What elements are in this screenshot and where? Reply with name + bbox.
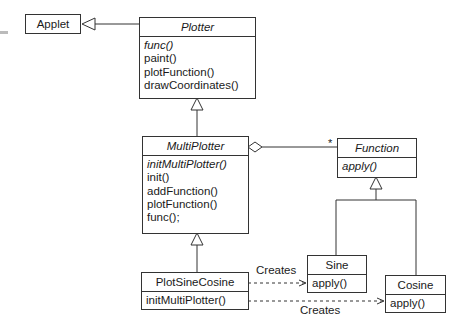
class-cosine: Cosine apply()	[385, 275, 446, 313]
operation: initMultiPlotter()	[146, 294, 244, 307]
operation: func();	[147, 211, 244, 224]
multiplicity-label: *	[328, 137, 332, 149]
operation: addFunction()	[147, 185, 244, 198]
operation: apply()	[312, 277, 362, 290]
operation: drawCoordinates()	[144, 79, 251, 92]
creates-cosine-label: Creates	[300, 304, 340, 316]
class-name: Cosine	[386, 276, 445, 295]
operation: func()	[144, 39, 251, 52]
operation: init()	[147, 171, 244, 184]
class-sine: Sine apply()	[307, 255, 367, 293]
creates-sine-label: Creates	[256, 264, 296, 276]
class-name: Function	[338, 139, 416, 158]
class-plotsinecosine: PlotSineCosine initMultiPlotter()	[141, 272, 249, 310]
operation: initMultiPlotter()	[147, 158, 244, 171]
class-function: Function apply()	[337, 138, 417, 178]
operation: plotFunction()	[147, 198, 244, 211]
operation: paint()	[144, 52, 251, 65]
class-name: MultiPlotter	[143, 137, 248, 156]
class-name: Applet	[26, 15, 80, 33]
operation: plotFunction()	[144, 66, 251, 79]
operation: apply()	[342, 160, 412, 173]
class-name: Plotter	[140, 18, 255, 37]
class-plotter: Plotter func() paint() plotFunction() dr…	[139, 17, 256, 99]
class-multiplotter: MultiPlotter initMultiPlotter() init() a…	[142, 136, 249, 234]
class-applet: Applet	[25, 14, 81, 34]
class-name: PlotSineCosine	[142, 273, 248, 292]
class-name: Sine	[308, 256, 366, 275]
operation: apply()	[390, 297, 441, 310]
